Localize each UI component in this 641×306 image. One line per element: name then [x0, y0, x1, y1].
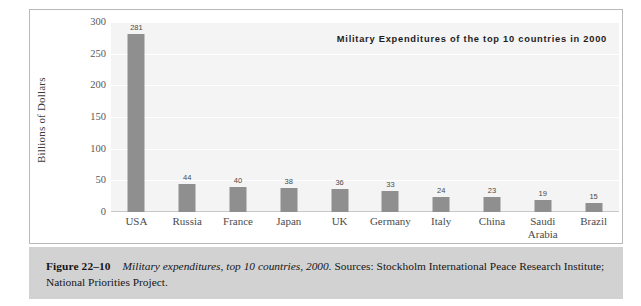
bar[interactable] — [128, 34, 145, 212]
bar[interactable] — [433, 197, 450, 212]
x-tick-label: Saudi Arabia — [517, 215, 568, 240]
bar-value-label: 19 — [539, 189, 547, 198]
x-tick-label: France — [213, 215, 264, 228]
x-axis-labels: USARussiaFranceJapanUKGermanyItalyChinaS… — [111, 215, 619, 245]
x-tick-label: Russia — [162, 215, 213, 228]
y-axis-ticks: 050100150200250300 — [64, 22, 106, 212]
x-tick-label: Brazil — [568, 215, 619, 228]
figure-caption: Figure 22–10Military expenditures, top 1… — [46, 259, 609, 290]
y-tick-label: 50 — [72, 175, 106, 185]
bar-value-label: 15 — [589, 192, 597, 201]
bar-group[interactable]: 33 — [365, 22, 416, 212]
bar-group[interactable]: 38 — [263, 22, 314, 212]
caption-figure-number: Figure 22–10 — [46, 260, 111, 272]
bar-group[interactable]: 19 — [517, 22, 568, 212]
bar-group[interactable]: 24 — [416, 22, 467, 212]
y-tick-label: 300 — [72, 17, 106, 27]
caption-title: Military expenditures, top 10 countries,… — [123, 260, 332, 272]
chart-panel: Billions of Dollars 050100150200250300 M… — [29, 9, 623, 244]
bar-value-label: 33 — [386, 180, 394, 189]
y-tick-label: 200 — [72, 80, 106, 90]
caption-band: Figure 22–10Military expenditures, top 1… — [29, 247, 623, 299]
bar-group[interactable]: 15 — [568, 22, 619, 212]
bar-group[interactable]: 23 — [467, 22, 518, 212]
y-axis-title: Billions of Dollars — [35, 60, 51, 180]
x-tick-label: UK — [314, 215, 365, 228]
bar-group[interactable]: 281 — [111, 22, 162, 212]
bars-layer: 281444038363324231915 — [111, 22, 619, 212]
bar-value-label: 281 — [130, 23, 143, 32]
x-tick-label: China — [467, 215, 518, 228]
x-tick-label: Germany — [365, 215, 416, 228]
bar-value-label: 44 — [183, 173, 191, 182]
bar-group[interactable]: 40 — [213, 22, 264, 212]
bar-value-label: 38 — [285, 177, 293, 186]
bar[interactable] — [331, 189, 348, 212]
bar-group[interactable]: 36 — [314, 22, 365, 212]
x-tick-label: Italy — [416, 215, 467, 228]
bar[interactable] — [382, 191, 399, 212]
bar[interactable] — [229, 187, 246, 212]
figure-root: Billions of Dollars 050100150200250300 M… — [0, 0, 641, 306]
bar-value-label: 23 — [488, 186, 496, 195]
x-tick-label: USA — [111, 215, 162, 228]
bar[interactable] — [585, 203, 602, 213]
x-tick-label: Japan — [263, 215, 314, 228]
y-tick-label: 250 — [72, 49, 106, 59]
plot-area: Military Expenditures of the top 10 coun… — [111, 22, 619, 212]
bar[interactable] — [534, 200, 551, 212]
bar-value-label: 24 — [437, 186, 445, 195]
y-tick-label: 0 — [72, 207, 106, 217]
bar[interactable] — [483, 197, 500, 212]
y-tick-label: 100 — [72, 144, 106, 154]
y-tick-label: 150 — [72, 112, 106, 122]
bar-value-label: 36 — [335, 178, 343, 187]
bar-group[interactable]: 44 — [162, 22, 213, 212]
bar[interactable] — [179, 184, 196, 212]
bar-value-label: 40 — [234, 176, 242, 185]
bar[interactable] — [280, 188, 297, 212]
